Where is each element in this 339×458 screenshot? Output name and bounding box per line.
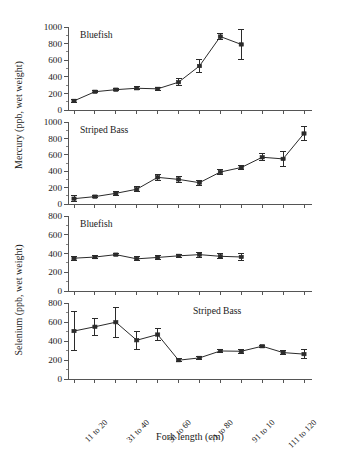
- data-point-marker: [260, 156, 264, 159]
- data-point-marker: [114, 320, 118, 323]
- data-point-marker: [135, 188, 139, 191]
- error-bar: [238, 165, 244, 170]
- data-point-marker: [281, 351, 285, 354]
- data-point-marker: [176, 254, 180, 257]
- y-tick-label: 0: [57, 105, 62, 115]
- y-tick-label: 200: [48, 183, 62, 193]
- y-tick-label: 600: [48, 317, 62, 327]
- y-tick-label: 400: [48, 336, 62, 346]
- y-tick-label: 1000: [44, 22, 63, 32]
- data-point-marker: [93, 195, 97, 198]
- y-tick-label: 0: [57, 199, 62, 209]
- error-bar: [113, 191, 119, 196]
- data-point-marker: [260, 345, 264, 348]
- data-point-marker: [156, 87, 160, 90]
- error-bar: [217, 254, 223, 259]
- data-point-marker: [239, 350, 243, 353]
- figure-root: 02004006008001000Bluefish020040060080010…: [0, 0, 339, 458]
- data-point-marker: [218, 35, 222, 38]
- data-point-marker: [135, 257, 139, 260]
- error-bar: [196, 59, 202, 72]
- panel-1: 02004006008001000Bluefish: [44, 22, 312, 115]
- y-tick-label: 400: [48, 166, 62, 176]
- y-axis-title-mercury: Mercury (ppb, wet weight): [13, 61, 25, 169]
- data-point-marker: [135, 87, 139, 90]
- data-point-marker: [239, 43, 243, 46]
- error-bar: [259, 154, 265, 161]
- error-bar: [238, 253, 244, 261]
- data-point-marker: [218, 170, 222, 173]
- y-tick-label: 800: [48, 134, 62, 144]
- y-tick-label: 400: [48, 72, 62, 82]
- error-bar: [155, 87, 161, 90]
- data-point-marker: [156, 176, 160, 179]
- y-tick-label: 200: [48, 355, 62, 365]
- data-point-marker: [197, 64, 201, 67]
- error-bar: [259, 345, 265, 348]
- data-point-marker: [176, 358, 180, 361]
- y-tick-label: 400: [48, 249, 62, 259]
- data-point-marker: [72, 197, 76, 200]
- error-bar: [196, 356, 202, 359]
- x-axis-title: Fork length (cm): [156, 431, 224, 443]
- error-bar: [71, 99, 77, 102]
- error-bar: [113, 253, 119, 256]
- panel-title: Striped Bass: [80, 124, 129, 135]
- data-point-marker: [197, 356, 201, 359]
- error-bar: [217, 349, 223, 352]
- error-bar: [217, 170, 223, 175]
- data-point-marker: [239, 255, 243, 258]
- series-line: [74, 133, 304, 198]
- y-tick-label: 200: [48, 267, 62, 277]
- y-tick-label: 0: [57, 374, 62, 384]
- error-bar: [92, 318, 98, 335]
- error-bar: [238, 29, 244, 60]
- error-bar: [134, 257, 140, 261]
- error-bar: [92, 255, 98, 258]
- y-tick-label: 200: [48, 89, 62, 99]
- panel-title: Bluefish: [80, 218, 113, 229]
- y-tick-label: 600: [48, 55, 62, 65]
- data-point-marker: [114, 88, 118, 91]
- data-point-marker: [114, 253, 118, 256]
- error-bar: [301, 350, 307, 359]
- error-bar: [301, 127, 307, 141]
- panel-2: 02004006008001000Striped Bass: [44, 117, 312, 209]
- y-tick-label: 800: [48, 211, 62, 221]
- x-tick-label: 31 to 40: [124, 417, 151, 444]
- axis-lines: [68, 303, 312, 379]
- error-bar: [196, 252, 202, 257]
- multi-panel-chart: 02004006008001000Bluefish020040060080010…: [0, 0, 339, 458]
- error-bar: [134, 331, 140, 349]
- error-bar: [71, 312, 77, 351]
- y-axis-title-selenium: Selenium (ppb, wet weight): [13, 244, 25, 355]
- error-bar: [92, 90, 98, 93]
- data-point-marker: [72, 329, 76, 332]
- series-line: [74, 322, 304, 360]
- error-bar: [176, 177, 182, 182]
- error-bar: [176, 358, 182, 361]
- series-line: [74, 37, 241, 101]
- data-point-marker: [93, 90, 97, 93]
- error-bar: [238, 349, 244, 353]
- error-bar: [134, 187, 140, 192]
- y-tick-label: 800: [48, 298, 62, 308]
- data-point-marker: [218, 255, 222, 258]
- panel-title: Bluefish: [80, 29, 113, 40]
- data-point-marker: [176, 178, 180, 181]
- error-bar: [196, 180, 202, 185]
- error-bar: [280, 351, 286, 355]
- error-bar: [92, 195, 98, 198]
- error-bar: [155, 329, 161, 341]
- error-bar: [155, 256, 161, 259]
- data-point-marker: [72, 99, 76, 102]
- data-point-marker: [93, 255, 97, 258]
- error-bar: [176, 78, 182, 85]
- error-bar: [71, 196, 77, 202]
- y-tick-label: 1000: [44, 117, 63, 127]
- data-point-marker: [197, 253, 201, 256]
- data-point-marker: [72, 256, 76, 259]
- data-point-marker: [218, 349, 222, 352]
- data-point-marker: [135, 339, 139, 342]
- data-point-marker: [302, 132, 306, 135]
